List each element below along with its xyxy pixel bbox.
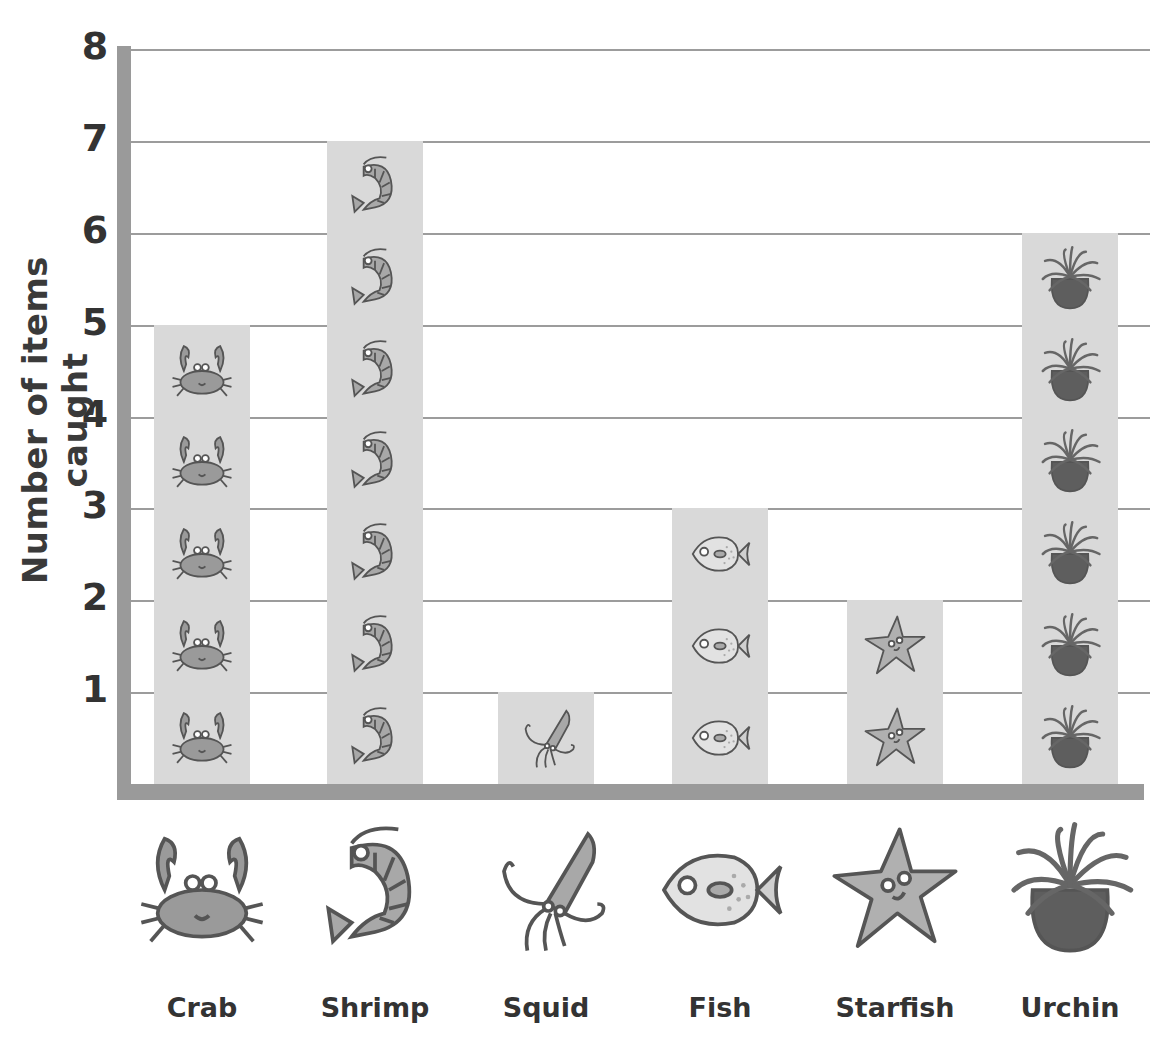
crab-icon xyxy=(154,692,250,784)
y-tick-label: 6 xyxy=(80,211,110,249)
bar-urchin xyxy=(1022,233,1118,784)
shrimp-icon xyxy=(327,600,423,692)
category-label: Starfish xyxy=(820,992,970,1023)
y-tick-label: 1 xyxy=(80,670,110,708)
shrimp-icon xyxy=(327,692,423,784)
bar-fish xyxy=(672,508,768,784)
crab-icon xyxy=(154,508,250,600)
bar-crab xyxy=(154,325,250,784)
shrimp-icon xyxy=(300,820,450,960)
urchin-icon xyxy=(1022,325,1118,417)
category-label: Shrimp xyxy=(300,992,450,1023)
category-label: Fish xyxy=(645,992,795,1023)
gridline xyxy=(131,417,1150,419)
fish-icon xyxy=(645,820,795,960)
y-tick-label: 7 xyxy=(80,119,110,157)
crab-icon xyxy=(154,325,250,417)
category-label: Squid xyxy=(471,992,621,1023)
bar-shrimp xyxy=(327,141,423,784)
bar-starfish xyxy=(847,600,943,784)
fish-icon xyxy=(672,692,768,784)
fish-icon xyxy=(672,600,768,692)
urchin-icon xyxy=(995,820,1145,960)
pictogram-bar-chart: Number of items caught 12345678 xyxy=(0,0,1167,1059)
gridline xyxy=(131,325,1150,327)
urchin-icon xyxy=(1022,508,1118,600)
gridline xyxy=(131,141,1150,143)
bar-squid xyxy=(498,692,594,784)
gridline xyxy=(131,692,1150,694)
starfish-icon xyxy=(820,820,970,960)
urchin-icon xyxy=(1022,600,1118,692)
urchin-icon xyxy=(1022,233,1118,325)
urchin-icon xyxy=(1022,692,1118,784)
gridline xyxy=(131,233,1150,235)
category-label: Urchin xyxy=(995,992,1145,1023)
gridline xyxy=(131,49,1150,51)
squid-icon xyxy=(498,692,594,784)
starfish-icon xyxy=(847,600,943,692)
squid-icon xyxy=(471,820,621,960)
y-tick-label: 3 xyxy=(80,486,110,524)
y-axis-line xyxy=(117,46,131,796)
crab-icon xyxy=(154,417,250,509)
y-axis-label: Number of items caught xyxy=(15,220,65,620)
shrimp-icon xyxy=(327,141,423,233)
fish-icon xyxy=(672,508,768,600)
shrimp-icon xyxy=(327,325,423,417)
urchin-icon xyxy=(1022,417,1118,509)
shrimp-icon xyxy=(327,417,423,509)
y-tick-label: 8 xyxy=(80,27,110,65)
starfish-icon xyxy=(847,692,943,784)
shrimp-icon xyxy=(327,233,423,325)
y-tick-label: 2 xyxy=(80,578,110,616)
y-tick-label: 4 xyxy=(80,395,110,433)
y-tick-label: 5 xyxy=(80,303,110,341)
gridline xyxy=(131,600,1150,602)
crab-icon xyxy=(154,600,250,692)
category-label: Crab xyxy=(127,992,277,1023)
gridline xyxy=(131,508,1150,510)
crab-icon xyxy=(127,820,277,960)
shrimp-icon xyxy=(327,508,423,600)
x-axis-line xyxy=(117,784,1144,800)
